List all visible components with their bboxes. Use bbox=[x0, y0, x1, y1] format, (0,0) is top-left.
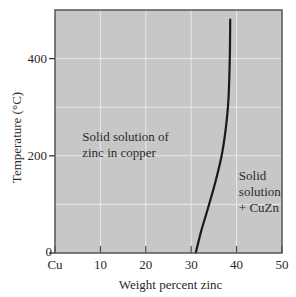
x-axis-title: Weight percent zinc bbox=[119, 277, 223, 292]
phase-diagram-chart: Cu1020304050 0200400 Weight percent zinc… bbox=[0, 0, 296, 297]
x-tick-label: 10 bbox=[94, 257, 107, 272]
y-tick-label: 200 bbox=[28, 148, 48, 163]
x-tick-label: 30 bbox=[185, 257, 198, 272]
x-tick-label: 40 bbox=[230, 257, 243, 272]
y-axis-title: Temperature (°C) bbox=[9, 92, 24, 183]
x-tick-labels: Cu1020304050 bbox=[47, 257, 288, 272]
x-tick-label: 50 bbox=[276, 257, 289, 272]
y-tick-label: 400 bbox=[28, 51, 48, 66]
y-tick-labels: 0200400 bbox=[28, 51, 53, 259]
x-tick-label: 20 bbox=[139, 257, 152, 272]
y-tick-label: 0 bbox=[46, 244, 53, 259]
x-tick-label: Cu bbox=[47, 257, 63, 272]
